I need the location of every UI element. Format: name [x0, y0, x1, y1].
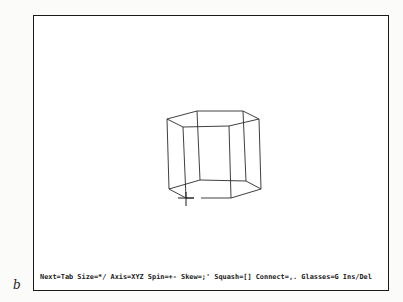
key-help-status-bar: Next=Tab Size=*/ Axis=XYZ Spin=+- Skew=;… — [40, 273, 386, 281]
bottom-edge — [200, 180, 246, 181]
top-edge — [167, 111, 197, 119]
crosshair-cursor-icon — [178, 192, 201, 206]
top-edge — [243, 111, 259, 119]
hexagonal-prism — [167, 111, 261, 198]
vertical-edge — [167, 119, 169, 189]
wireframe-viewport[interactable] — [34, 16, 388, 290]
bottom-edge — [231, 189, 261, 198]
figure-label: b — [13, 278, 21, 292]
vertical-edge — [259, 119, 261, 189]
vertical-edge — [229, 126, 231, 198]
vertical-edge — [243, 111, 246, 181]
bottom-edge — [169, 180, 200, 189]
top-edge — [183, 126, 229, 127]
bottom-edge — [169, 189, 186, 198]
top-edge — [167, 119, 183, 127]
vertical-edge — [183, 127, 186, 198]
vertical-edge — [197, 111, 200, 180]
graphics-screen[interactable]: Next=Tab Size=*/ Axis=XYZ Spin=+- Skew=;… — [33, 15, 389, 291]
bottom-edge — [246, 181, 261, 189]
